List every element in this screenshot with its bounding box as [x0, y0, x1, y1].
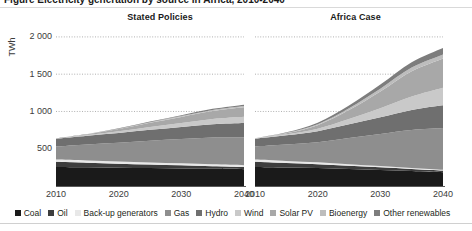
x-tick-stated-policies-2020: 2020: [99, 189, 139, 199]
plot-area-stated-policies: [56, 22, 244, 186]
x-tick-stated-policies-2010: 2010: [36, 189, 76, 199]
legend-item-gas[interactable]: Gas: [165, 208, 190, 218]
legend-item-hydro[interactable]: Hydro: [196, 208, 228, 218]
legend-swatch-icon: [196, 210, 202, 216]
area-chart-africa-case: [255, 22, 443, 186]
y-tick-2000: 2 000: [4, 32, 52, 41]
y-tick-500: 500: [4, 144, 52, 153]
legend-swatch-icon: [374, 210, 380, 216]
legend-label: Hydro: [205, 208, 228, 218]
legend-item-other-renewables[interactable]: Other renewables: [374, 208, 450, 218]
legend-label: Back-up generators: [84, 208, 158, 218]
legend-swatch-icon: [165, 210, 171, 216]
y-tick-1500: 1 500: [4, 70, 52, 79]
legend-label: Coal: [24, 208, 41, 218]
panel-title-stated-policies: Stated Policies: [60, 12, 260, 22]
x-tick-stated-policies-2030: 2030: [161, 189, 201, 199]
x-tick-africa-case-2030: 2030: [360, 189, 400, 199]
legend-item-oil[interactable]: Oil: [48, 208, 67, 218]
legend-item-back-up-generators[interactable]: Back-up generators: [75, 208, 158, 218]
legend-label: Solar PV: [279, 208, 313, 218]
legend-label: Bioenergy: [329, 208, 367, 218]
bottom-divider: [0, 223, 472, 224]
figure-title-text: Figure Electricity generation by source …: [4, 0, 285, 5]
legend-swatch-icon: [235, 210, 241, 216]
x-axis-line-stated-policies: [56, 186, 246, 187]
legend-item-solar-pv[interactable]: Solar PV: [270, 208, 313, 218]
legend-item-coal[interactable]: Coal: [15, 208, 41, 218]
figure-title-clipped: Figure Electricity generation by source …: [0, 0, 472, 7]
chart-legend: CoalOilBack-up generatorsGasHydroWindSol…: [0, 206, 472, 220]
chart-figure: Figure Electricity generation by source …: [0, 0, 472, 231]
legend-swatch-icon: [15, 210, 21, 216]
legend-swatch-icon: [48, 210, 54, 216]
x-tick-africa-case-2020: 2020: [298, 189, 338, 199]
legend-item-bioenergy[interactable]: Bioenergy: [320, 208, 367, 218]
legend-swatch-icon: [320, 210, 326, 216]
x-tick-africa-case-2040: 2040: [423, 189, 463, 199]
panel-title-africa-case: Africa Case: [258, 12, 453, 22]
legend-item-wind[interactable]: Wind: [235, 208, 263, 218]
area-band-coal: [56, 167, 244, 186]
legend-label: Gas: [174, 208, 190, 218]
x-tick-africa-case-2010: 2010: [235, 189, 275, 199]
legend-label: Oil: [57, 208, 67, 218]
legend-label: Other renewables: [383, 208, 450, 218]
plot-area-africa-case: [255, 22, 443, 186]
area-chart-stated-policies: [56, 22, 244, 186]
top-divider: [0, 7, 472, 8]
x-axis-line-africa-case: [255, 186, 445, 187]
legend-label: Wind: [244, 208, 263, 218]
legend-swatch-icon: [75, 210, 81, 216]
y-tick-1000: 1 000: [4, 107, 52, 116]
legend-swatch-icon: [270, 210, 276, 216]
